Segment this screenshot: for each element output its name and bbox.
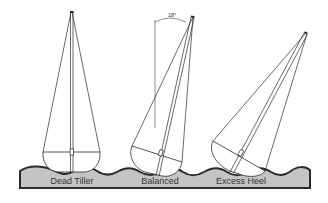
boat-dead-tiller: [43, 11, 100, 172]
sailboat-heel-diagram: 18° Dead Tiller: [0, 0, 328, 203]
angle-arc: [155, 18, 186, 22]
angle-label: 18°: [168, 12, 176, 18]
label-excess-heel: Excess Heel: [216, 176, 266, 186]
label-dead-tiller: Dead Tiller: [50, 176, 93, 186]
label-balanced: Balanced: [141, 176, 179, 186]
boat-balanced: 18°: [131, 12, 195, 176]
boat-excess-heel: [212, 31, 308, 176]
